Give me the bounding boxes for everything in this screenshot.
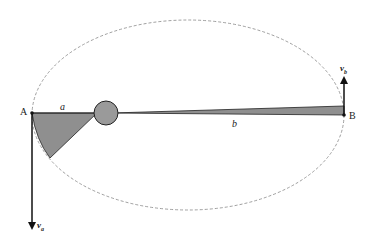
label-segment-a: a [60, 102, 65, 112]
point-a [30, 111, 34, 115]
point-b [342, 113, 346, 117]
sector-b [112, 106, 344, 115]
label-point-a: A [20, 107, 27, 117]
label-segment-b: b [232, 119, 237, 129]
sector-a [32, 113, 97, 158]
central-body [94, 101, 118, 125]
orbit-diagram [0, 0, 370, 241]
label-velocity-a: va [37, 221, 44, 232]
label-velocity-b: vb [340, 64, 347, 75]
label-point-b: B [349, 111, 356, 121]
